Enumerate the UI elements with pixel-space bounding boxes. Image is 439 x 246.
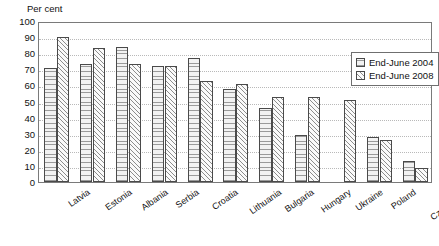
bar (44, 68, 56, 182)
bar-group (75, 23, 111, 182)
bar (344, 100, 356, 182)
bar (295, 135, 307, 182)
bar (93, 48, 105, 182)
bar (308, 97, 320, 182)
x-axis-tick-label: Latvia (66, 187, 91, 209)
y-axis-tick-label: 100 (1, 17, 35, 27)
bar-group (361, 23, 397, 182)
x-axis-tick-label: Albania (139, 187, 169, 212)
bar (380, 140, 392, 182)
y-axis-tick-label: 40 (1, 114, 35, 124)
bar-group (290, 23, 326, 182)
x-axis-tick-label: Ukraine (354, 187, 385, 213)
bar (403, 161, 415, 182)
bar (259, 108, 271, 182)
y-axis-tick-label: 50 (1, 98, 35, 108)
bar-chart-figure: Per cent 0102030405060708090100 End-June… (0, 0, 439, 246)
y-axis-unit-label: Per cent (27, 3, 62, 14)
bar (188, 58, 200, 182)
bar (272, 97, 284, 182)
legend-label: End-June 2004 (369, 57, 433, 68)
y-axis-tick-label: 30 (1, 130, 35, 140)
legend-swatch-2008-icon (356, 71, 365, 80)
bar-group (254, 23, 290, 182)
bar (129, 64, 141, 182)
y-axis-tick-label: 70 (1, 65, 35, 75)
bar (165, 66, 177, 182)
x-axis-tick-label: Lithuania (248, 187, 284, 216)
bar (152, 66, 164, 182)
y-axis-tick-label: 20 (1, 146, 35, 156)
bar-group (39, 23, 75, 182)
bar-group (111, 23, 147, 182)
bar (415, 168, 427, 182)
bar (236, 84, 248, 182)
legend-label: End-June 2008 (369, 70, 433, 81)
bar (80, 64, 92, 182)
legend-swatch-2004-icon (356, 58, 365, 67)
y-axis-tick-labels: 0102030405060708090100 (0, 22, 35, 183)
bar-group (146, 23, 182, 182)
x-axis-tick-label: Hungary (319, 187, 353, 215)
plot-area: End-June 2004End-June 2008 (38, 22, 432, 183)
x-axis-tick-label: Czech Rep. (429, 187, 439, 222)
x-axis-tick-label: Poland (389, 187, 418, 211)
bar (223, 89, 235, 182)
bar-group (182, 23, 218, 182)
x-axis-tick-label: Serbia (174, 187, 201, 210)
bar (116, 47, 128, 182)
bar (200, 81, 212, 182)
x-axis-tick-label: Croatia (210, 187, 240, 212)
legend-item: End-June 2004 (356, 56, 433, 69)
x-axis-tick-label: Estonia (103, 187, 133, 212)
bar-group (218, 23, 254, 182)
y-axis-tick-label: 90 (1, 33, 35, 43)
bar-group (397, 23, 433, 182)
x-axis-tick-label: Bulgaria (283, 187, 316, 214)
bar-group (326, 23, 362, 182)
y-axis-tick-label: 80 (1, 49, 35, 59)
y-axis-tick-label: 10 (1, 162, 35, 172)
x-axis-tick-labels: LatviaEstoniaAlbaniaSerbiaCroatiaLithuan… (38, 183, 432, 246)
legend: End-June 2004End-June 2008 (351, 52, 439, 86)
bar (57, 37, 69, 182)
bar (367, 137, 379, 182)
legend-item: End-June 2008 (356, 69, 433, 82)
y-axis-tick-label: 0 (1, 178, 35, 188)
y-axis-tick-label: 60 (1, 81, 35, 91)
